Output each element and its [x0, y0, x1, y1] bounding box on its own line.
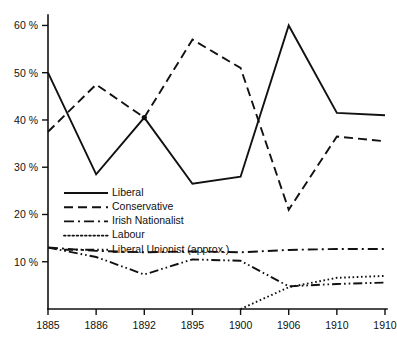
x-tick-label: 1906: [277, 319, 301, 331]
y-axis-ticks: [42, 25, 48, 261]
legend-label: Irish Nationalist: [112, 214, 184, 226]
y-axis-tick-labels: 10 %20 %30 %40 %50 %60 %: [14, 19, 38, 267]
x-tick-label: 1892: [133, 319, 157, 331]
x-tick-label: 1895: [181, 319, 205, 331]
election-share-line-chart: 10 %20 %30 %40 %50 %60 % 188518861892189…: [0, 0, 397, 346]
crossover-marker: [142, 115, 147, 120]
x-tick-label: 1886: [84, 319, 108, 331]
legend-label: Liberal: [112, 186, 144, 198]
series-group: [48, 25, 385, 309]
annotation-group: [142, 115, 147, 120]
x-tick-label: 1900: [229, 319, 253, 331]
series-line-conservative: [48, 40, 385, 210]
chart-legend: LiberalConservativeIrish NationalistLabo…: [64, 186, 229, 255]
series-line-labour: [241, 276, 385, 309]
x-tick-label: 1885: [36, 319, 60, 331]
x-tick-label: 1910: [373, 319, 397, 331]
y-tick-label: 30 %: [14, 161, 38, 173]
chart-canvas: 10 %20 %30 %40 %50 %60 % 188518861892189…: [0, 0, 397, 346]
y-tick-label: 20 %: [14, 208, 38, 220]
y-tick-label: 40 %: [14, 114, 38, 126]
series-line-liberal: [48, 25, 385, 183]
y-tick-label: 10 %: [14, 256, 38, 268]
legend-label: Labour: [112, 228, 145, 240]
x-axis-ticks: [48, 309, 385, 315]
x-tick-label: 1910: [325, 319, 349, 331]
y-tick-label: 60 %: [14, 19, 38, 31]
axes-group: [48, 15, 387, 309]
legend-label: Conservative: [112, 200, 173, 212]
y-tick-label: 50 %: [14, 67, 38, 79]
legend-label: Liberal Unionist (approx.): [112, 243, 229, 255]
x-axis-tick-labels: 18851886189218951900190619101910: [36, 319, 397, 331]
